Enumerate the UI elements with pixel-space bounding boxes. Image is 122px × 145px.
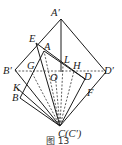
label-a-prime: A′: [50, 7, 60, 18]
label-a: A: [43, 41, 51, 52]
label-l: L: [63, 54, 70, 65]
label-f: F: [86, 87, 94, 98]
geometry-diagram: A′ E A L B′ G O H D D′ K B F C(C′) 图 13: [0, 0, 122, 145]
label-e: E: [28, 33, 36, 44]
label-d: D: [83, 71, 92, 82]
label-o: O: [50, 72, 58, 83]
segment-c-e: [36, 43, 60, 126]
label-d-prime: D′: [103, 65, 115, 76]
segment-c-k: [17, 88, 60, 126]
label-b: B: [12, 92, 19, 103]
ray-c-a: [44, 51, 60, 126]
ray-c-l: [60, 65, 63, 126]
label-h: H: [72, 60, 82, 71]
figure-caption: 图 13: [46, 136, 69, 145]
label-g: G: [27, 60, 35, 71]
label-b-prime: B′: [3, 65, 12, 76]
